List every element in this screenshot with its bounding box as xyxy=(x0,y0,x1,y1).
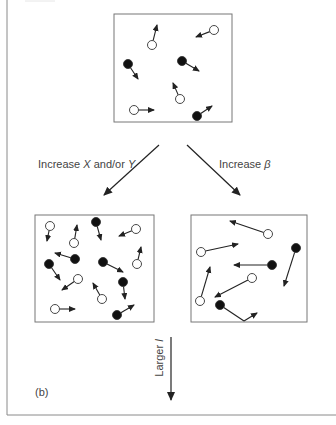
label-increase-beta: Increase β xyxy=(219,158,271,170)
velocity-arrow xyxy=(75,225,77,239)
arrow-increase-xy xyxy=(104,145,159,195)
velocity-arrow xyxy=(284,252,295,286)
open-circle-icon xyxy=(130,106,139,115)
open-circle-icon xyxy=(176,95,185,104)
open-circle-icon xyxy=(148,41,157,50)
var-beta: β xyxy=(264,158,270,170)
particle-open xyxy=(70,225,79,248)
box-faster-particles xyxy=(191,215,307,322)
velocity-arrow xyxy=(62,282,74,290)
filled-circle-icon xyxy=(193,112,202,121)
particle-open xyxy=(197,244,239,257)
particle-open xyxy=(51,305,76,314)
box-initial-state xyxy=(114,14,232,122)
velocity-segment xyxy=(224,307,244,321)
particle-filled xyxy=(234,261,277,270)
diagram-figure: Increase X and/or Y Increase β Larger l … xyxy=(0,0,336,425)
filled-circle-icon xyxy=(92,218,101,227)
velocity-arrow xyxy=(97,226,101,240)
open-circle-icon xyxy=(51,305,60,314)
diagram-canvas xyxy=(0,0,336,425)
filled-circle-icon xyxy=(45,260,54,269)
panel-label-b: (b) xyxy=(35,386,48,398)
velocity-arrow xyxy=(153,25,157,41)
open-circle-icon xyxy=(98,295,107,304)
particle-filled xyxy=(119,278,128,300)
open-circle-icon xyxy=(133,260,142,269)
velocity-arrow xyxy=(196,32,210,37)
particle-filled xyxy=(113,305,135,320)
velocity-arrow xyxy=(201,106,212,114)
particle-open xyxy=(148,25,158,50)
filled-circle-icon xyxy=(71,255,80,264)
particle-open xyxy=(62,275,83,291)
velocity-arrow xyxy=(52,268,60,280)
label-increase-xy-mid: and/or xyxy=(91,158,128,170)
label-increase-xy-prefix: Increase xyxy=(38,158,83,170)
particle-filled xyxy=(92,218,102,241)
velocity-arrow xyxy=(205,244,238,251)
filled-circle-icon xyxy=(99,258,108,267)
filled-circle-icon xyxy=(124,60,133,69)
particle-open xyxy=(196,26,219,38)
velocity-arrow xyxy=(186,63,199,71)
arrow-increase-beta xyxy=(187,145,240,195)
velocity-arrow xyxy=(121,305,134,313)
particle-open xyxy=(119,225,141,237)
particle-open xyxy=(215,274,257,298)
velocity-arrow xyxy=(215,280,248,297)
velocity-arrow xyxy=(124,286,125,299)
open-circle-icon xyxy=(196,297,205,306)
label-increase-beta-prefix: Increase xyxy=(219,158,264,170)
particle-open xyxy=(173,83,185,104)
open-circle-icon xyxy=(248,274,257,283)
filled-circle-icon xyxy=(178,57,187,66)
open-circle-icon xyxy=(74,275,83,284)
open-circle-icon xyxy=(70,239,79,248)
velocity-arrow xyxy=(47,230,49,241)
open-circle-icon xyxy=(197,248,206,257)
velocity-arrow xyxy=(173,83,178,95)
var-l: l xyxy=(153,339,165,341)
particle-open xyxy=(46,222,55,242)
particle-open xyxy=(93,283,107,304)
velocity-arrow xyxy=(244,313,257,321)
var-x: X xyxy=(83,158,90,170)
particle-filled xyxy=(45,260,61,281)
particle-filled xyxy=(99,258,124,273)
filled-circle-icon xyxy=(113,311,122,320)
filled-circle-icon xyxy=(119,278,128,287)
open-circle-icon xyxy=(210,26,219,35)
particle-filled xyxy=(124,60,139,80)
particle-open xyxy=(130,106,155,115)
open-circle-icon xyxy=(46,222,55,231)
velocity-arrow xyxy=(119,231,132,236)
box-more-particles xyxy=(35,215,154,322)
velocity-arrow xyxy=(201,267,210,297)
open-circle-icon xyxy=(132,225,141,234)
filled-circle-icon xyxy=(292,244,301,253)
filled-circle-icon xyxy=(216,301,225,310)
particle-open xyxy=(230,221,273,239)
velocity-arrow xyxy=(107,264,123,272)
label-larger-l: Larger l xyxy=(153,330,165,386)
open-circle-icon xyxy=(264,230,273,239)
particle-open xyxy=(133,247,142,269)
particle-filled xyxy=(178,57,200,72)
particle-filled xyxy=(216,301,258,322)
velocity-arrow xyxy=(230,221,264,233)
particle-open xyxy=(196,267,211,306)
velocity-arrow xyxy=(55,253,71,258)
velocity-arrow xyxy=(138,247,141,260)
label-increase-xy: Increase X and/or Y xyxy=(38,158,135,170)
label-larger-l-prefix: Larger xyxy=(153,342,165,377)
particle-filled xyxy=(55,253,80,264)
var-y: Y xyxy=(128,158,135,170)
velocity-arrow xyxy=(93,283,100,295)
filled-circle-icon xyxy=(268,261,277,270)
velocity-arrow xyxy=(130,68,138,79)
particle-filled xyxy=(284,244,301,287)
particle-filled xyxy=(193,106,213,121)
